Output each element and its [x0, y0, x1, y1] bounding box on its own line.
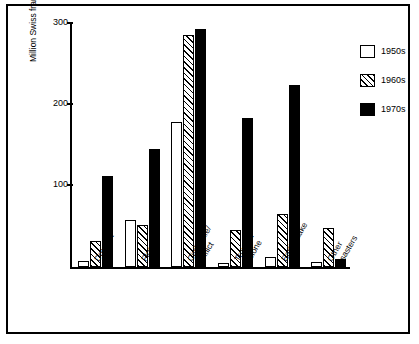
bar-group	[78, 24, 125, 267]
bar-1950s-Earthquake	[265, 257, 276, 267]
bar-group	[125, 24, 172, 267]
bar-1950s-Flood	[125, 220, 136, 267]
legend-label-1950s: 1950s	[381, 46, 406, 56]
chart-root: Million Swiss francs 100 200 300 Drought…	[0, 0, 419, 344]
y-tick-label-100: 100	[46, 180, 68, 189]
legend-label-1960s: 1960s	[381, 75, 406, 85]
y-tick-label-200: 200	[46, 99, 68, 108]
y-axis-title: Million Swiss francs	[28, 0, 38, 62]
bar-1950s-Civilstrifeconflict	[171, 122, 182, 267]
bar-1950s-Drought	[78, 261, 89, 267]
chart-frame: Million Swiss francs 100 200 300 Drought…	[6, 4, 410, 334]
bar-group	[311, 24, 358, 267]
y-tick-label-300: 300	[46, 18, 68, 27]
legend-swatch-1950s	[360, 45, 375, 58]
legend-swatch-1970s	[360, 103, 375, 116]
bar-1960s-Civilstrifeconflict	[183, 35, 194, 267]
bar-1950s-Tropicalcyclone	[218, 263, 229, 267]
bar-group	[218, 24, 265, 267]
legend-swatch-1960s	[360, 74, 375, 87]
legend-label-1970s: 1970s	[381, 104, 406, 114]
bar-1950s-Otherdisasters	[311, 262, 322, 267]
